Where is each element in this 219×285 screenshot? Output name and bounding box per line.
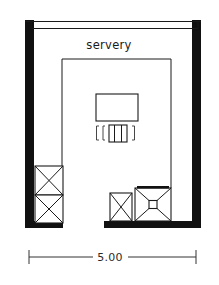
bottom-wall-right xyxy=(104,221,201,228)
room-label: servery xyxy=(86,38,131,52)
center-appliance-body xyxy=(109,125,127,142)
floor-plan-drawing: servery xyxy=(0,0,219,285)
left-upper-unit xyxy=(35,166,63,195)
center-appliance-bracket-outer-left xyxy=(97,126,100,140)
floor-plan-canvas: servery xyxy=(0,0,219,285)
bottom-right-hob-center xyxy=(149,201,157,209)
center-appliance xyxy=(97,125,135,142)
bottom-right-hob xyxy=(135,186,171,221)
inner-outline-path xyxy=(62,59,171,188)
right-wall xyxy=(192,20,201,221)
bottom-small-unit xyxy=(110,193,132,221)
center-appliance-bracket-right xyxy=(132,126,135,140)
bottom-right-hob-backsplash xyxy=(137,186,169,189)
center-appliance-bracket-inner-left xyxy=(103,126,105,140)
dimension-value: 5.00 xyxy=(97,251,122,264)
dimension-line-group: 5.00 xyxy=(29,250,196,264)
left-wall xyxy=(25,20,34,228)
inner-room-outline xyxy=(62,59,171,188)
counter-island-body xyxy=(96,94,138,121)
left-lower-unit xyxy=(35,195,63,223)
counter-island xyxy=(96,94,138,121)
